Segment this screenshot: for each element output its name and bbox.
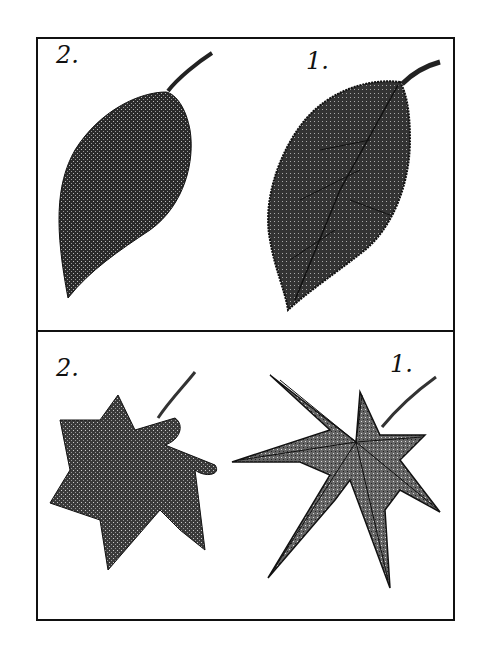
panel-bottom: 2. 1. [38, 332, 453, 619]
leaf-smooth-icon [38, 39, 238, 319]
leaf-serrated-icon [258, 39, 458, 319]
leaf-maple-icon [228, 332, 458, 592]
panel-top: 2. 1. [38, 39, 453, 330]
leaf-lobed-icon [38, 332, 238, 592]
